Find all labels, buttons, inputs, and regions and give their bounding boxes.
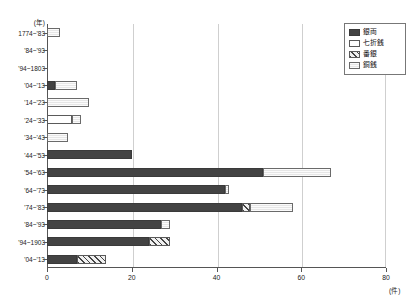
gridline-60 [302,24,303,267]
x-axis-tick-label: 80 [382,274,390,281]
legend-label: 銅銭 [363,62,377,69]
bar-chart: (年) 1774~'83'84~'93'94~1803'04~'13'14~'2… [0,0,414,301]
bar-segment-ginryo [47,168,263,177]
bar-segment-dosen [47,98,89,107]
x-axis-tick-label: 0 [45,274,49,281]
bar-segment-bangin [242,203,250,212]
y-axis-tick-label: '74~'83 [24,204,45,211]
bar-segment-dosen [225,185,229,194]
y-axis-tick-label: '54~'63 [24,169,45,176]
bar-segment-ginryo [47,220,161,229]
bar-segment-dosen [161,220,169,229]
bar-row [47,237,386,246]
bar-segment-dosen [72,115,80,124]
x-axis-tick-label: 20 [128,274,136,281]
bar-row [47,220,386,229]
bar-row [47,81,386,90]
y-axis-tick-label: '14~'23 [24,99,45,106]
y-axis-tick-label: '34~'43 [24,134,45,141]
bar-segment-dosen [250,203,292,212]
plot-area [47,24,386,268]
bar-segment-ginryo [47,237,149,246]
x-axis-tick [386,268,387,272]
legend-swatch-hatch-icon [349,51,360,58]
bar-segment-dosen [47,28,60,37]
y-axis-tick-label: 1774~'83 [18,29,45,36]
bar-segment-ginryo [47,185,225,194]
x-axis-unit-label: (件) [389,285,400,295]
bar-segment-bangin [149,237,170,246]
x-axis-tick-label: 60 [297,274,305,281]
bar-segment-ginryo [47,255,77,264]
legend-item: 銀両 [349,27,402,38]
bar-segment-dosen [47,133,68,142]
x-axis-tick [217,268,218,272]
y-axis-tick-label: '64~'73 [24,186,45,193]
bar-segment-shichiorisen [47,115,72,124]
bar-segment-dosen [263,168,331,177]
bar-row [47,255,386,264]
bar-row [47,98,386,107]
legend-item: 銅銭 [349,60,402,71]
chart-legend: 銀両 七折銭 番銀 銅銭 [344,23,406,75]
bar-row [47,203,386,212]
y-axis-tick-label: '04~'13 [24,256,45,263]
bar-row [47,133,386,142]
gridline-20 [133,24,134,267]
y-axis-tick-label: '04~'13 [24,82,45,89]
y-axis-tick-label: '84~'93 [24,47,45,54]
bar-row [47,46,386,55]
y-axis-tick-label: '94~1803 [18,64,45,71]
y-axis-tick-label: '84~'93 [24,221,45,228]
bar-row [47,168,386,177]
x-axis-tick [132,268,133,272]
x-axis-tick [301,268,302,272]
bar-row [47,63,386,72]
bar-segment-dosen [55,81,76,90]
bar-segment-bangin [77,255,107,264]
bar-row [47,185,386,194]
legend-swatch-dot-icon [349,62,360,69]
legend-label: 銀両 [363,29,377,36]
x-axis-tick-label: 40 [213,274,221,281]
bar-row [47,28,386,37]
bar-row [47,115,386,124]
legend-swatch-white-icon [349,40,360,47]
bar-segment-ginryo [47,150,132,159]
legend-item: 七折銭 [349,38,402,49]
legend-label: 七折銭 [363,40,384,47]
gridline-40 [218,24,219,267]
y-axis-tick-label: '24~'33 [24,116,45,123]
y-axis-unit-label: (年) [0,17,45,27]
x-axis-tick [47,268,48,272]
y-axis-tick-label: '94~1903 [18,238,45,245]
bar-segment-ginryo [47,81,55,90]
bar-segment-ginryo [47,203,242,212]
legend-label: 番銀 [363,51,377,58]
legend-item: 番銀 [349,49,402,60]
y-axis-tick-label: '44~'53 [24,151,45,158]
legend-swatch-solid-icon [349,29,360,36]
bar-row [47,150,386,159]
